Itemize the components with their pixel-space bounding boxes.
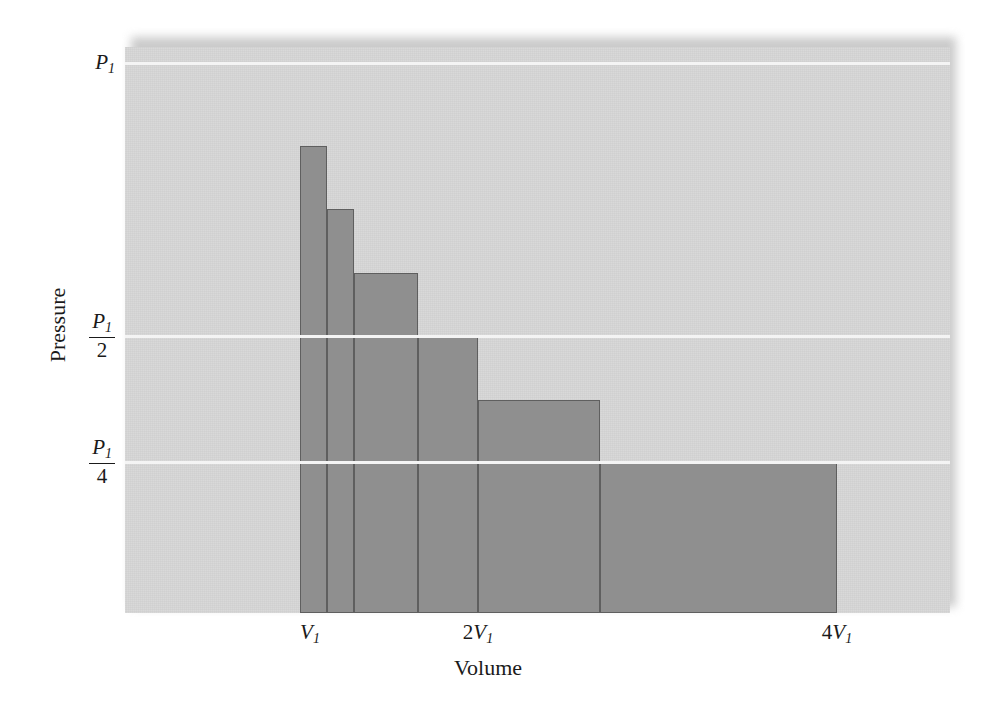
- ytick-p1-over-4-sub: 1: [105, 446, 112, 461]
- ytick-p1-base: P: [95, 50, 108, 74]
- gridline-p1: [125, 62, 950, 65]
- ytick-p1-over-4-base: P: [92, 435, 105, 459]
- bar-step-1: [300, 146, 327, 613]
- ytick-label-p1-over-4: P1 4: [30, 436, 115, 487]
- x-axis-title: Volume: [0, 655, 998, 681]
- gridline-p1-over-4: [125, 461, 950, 464]
- ytick-p1-over-2-sub: 1: [105, 320, 112, 335]
- bar-step-5: [478, 400, 600, 613]
- gridline-p1-over-2: [125, 335, 950, 338]
- pv-diagram-figure: P1 P1 2 P1 4 V1 2V1 4V1 Volume Pressure: [0, 0, 998, 703]
- bar-step-3: [354, 273, 418, 613]
- plot-panel: [125, 47, 950, 613]
- bar-step-4: [418, 337, 478, 613]
- y-axis-title: Pressure: [45, 288, 71, 363]
- ytick-label-p1: P1: [30, 52, 115, 76]
- xtick-2v1-sub: 1: [486, 631, 493, 646]
- xtick-label-4v1: 4V1: [777, 620, 897, 647]
- bar-step-2: [327, 209, 354, 613]
- fraction-denominator: 4: [89, 464, 115, 487]
- xtick-4v1-base: V: [832, 620, 845, 644]
- fraction-p1-over-2: P1 2: [89, 310, 115, 361]
- bar-step-6: [600, 463, 837, 613]
- fraction-denominator: 2: [89, 338, 115, 361]
- xtick-label-2v1: 2V1: [418, 620, 538, 647]
- ytick-p1-over-2-base: P: [92, 309, 105, 333]
- xtick-4v1-coef: 4: [822, 620, 833, 644]
- fraction-numerator: P1: [89, 310, 115, 338]
- xtick-4v1-sub: 1: [845, 631, 852, 646]
- xtick-v1-sub: 1: [313, 631, 320, 646]
- fraction-p1-over-4: P1 4: [89, 436, 115, 487]
- ytick-p1-sub: 1: [108, 61, 115, 76]
- xtick-v1-base: V: [300, 620, 313, 644]
- xtick-2v1-coef: 2: [463, 620, 474, 644]
- ytick-label-p1-over-2: P1 2: [30, 310, 115, 361]
- x-axis-title-text: Volume: [454, 655, 522, 680]
- fraction-numerator: P1: [89, 436, 115, 464]
- xtick-label-v1: V1: [250, 620, 370, 647]
- xtick-2v1-base: V: [473, 620, 486, 644]
